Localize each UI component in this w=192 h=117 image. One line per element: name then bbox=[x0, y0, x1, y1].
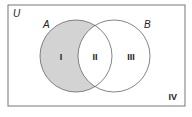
universe-label: U bbox=[13, 8, 21, 19]
venn-diagram: U A B I II III IV bbox=[0, 0, 192, 117]
region-ii-label: II bbox=[92, 52, 97, 62]
region-iii-label: III bbox=[127, 52, 135, 62]
region-i-label: I bbox=[60, 52, 63, 62]
set-a-label: A bbox=[42, 19, 50, 30]
region-iv-label: IV bbox=[168, 92, 177, 102]
set-b-label: B bbox=[144, 19, 151, 30]
